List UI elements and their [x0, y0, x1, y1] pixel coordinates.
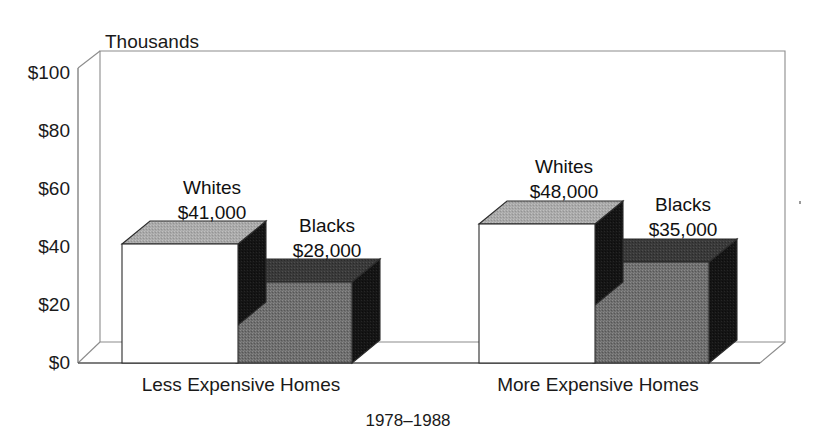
bar-chart-3d: $0 $20 $40 $60 $80 $100 Thousands [0, 0, 816, 446]
y-axis-tick-labels: $0 $20 $40 $60 $80 $100 [28, 62, 70, 373]
bar-front-face [479, 224, 595, 363]
depth-edge-bottom-left [78, 342, 100, 363]
x-axis-category-labels: Less Expensive Homes More Expensive Home… [142, 374, 699, 395]
series-value: $35,000 [649, 219, 718, 240]
chart-page: $0 $20 $40 $60 $80 $100 Thousands [0, 0, 816, 446]
y-tick-0: $0 [49, 352, 70, 373]
category-label-more-expensive: More Expensive Homes [497, 374, 699, 395]
annotation-whites-less-expensive: Whites $41,000 [178, 177, 247, 223]
depth-edge-bottom-right [760, 342, 785, 363]
y-tick-40: $40 [38, 236, 70, 257]
axis-unit-label: Thousands [105, 31, 199, 52]
series-name: Whites [183, 177, 241, 198]
category-label-less-expensive: Less Expensive Homes [142, 374, 341, 395]
y-tick-20: $20 [38, 294, 70, 315]
annotation-blacks-less-expensive: Blacks $28,000 [293, 215, 362, 261]
series-name: Blacks [655, 194, 711, 215]
chart-caption: 1978–1988 [365, 411, 450, 430]
annotation-whites-more-expensive: Whites $48,000 [530, 156, 599, 202]
bar-front-face [122, 244, 238, 363]
y-tick-80: $80 [38, 120, 70, 141]
series-value: $48,000 [530, 181, 599, 202]
annotation-blacks-more-expensive: Blacks $35,000 [649, 194, 718, 240]
series-name: Whites [535, 156, 593, 177]
series-name: Blacks [299, 215, 355, 236]
y-tick-60: $60 [38, 178, 70, 199]
depth-edge-top-left [78, 51, 100, 68]
scan-speck [799, 201, 801, 204]
series-value: $41,000 [178, 202, 247, 223]
series-value: $28,000 [293, 240, 362, 261]
y-tick-100: $100 [28, 62, 70, 83]
